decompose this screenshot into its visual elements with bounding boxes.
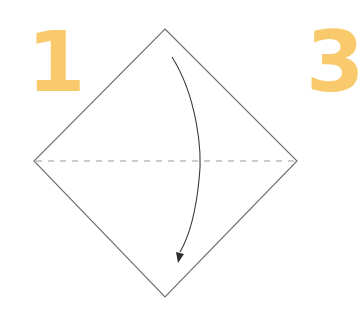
paper-square-outline	[34, 29, 297, 297]
